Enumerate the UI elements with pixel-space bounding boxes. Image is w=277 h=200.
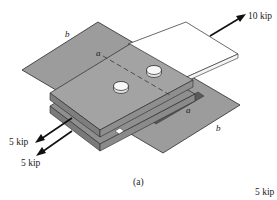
section-label-b-top: b [65,29,70,39]
load-label-5kip-upper: 5 kip [9,137,29,147]
bolt-head-front [114,82,129,94]
load-label-10kip: 10 kip [248,11,272,21]
figure-caption: (a) [133,177,144,188]
bolted-lap-joint-diagram: 10 kip 5 kip 5 kip 5 kip b a a b (a) [0,0,277,200]
load-label-5kip-lower: 5 kip [21,158,41,168]
section-label-a-bottom: a [186,105,191,115]
section-label-a-top: a [96,48,101,58]
bolt-head-rear [147,66,162,78]
force-arrow-5kip-upper [35,118,72,143]
section-label-b-bottom: b [216,123,221,133]
force-arrow-10kip [210,14,246,36]
load-label-5kip-bottom-right: 5 kip [255,187,275,197]
